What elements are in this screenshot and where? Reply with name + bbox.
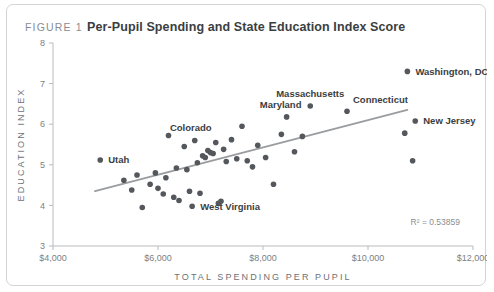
data-point — [412, 118, 418, 124]
figure-card: FIGURE 1 Per-Pupil Spending and State Ed… — [6, 4, 486, 286]
scatter-chart: 345678 $4,000$6,000$8,000$10,000$12,000 … — [7, 5, 487, 287]
point-label: West Virginia — [200, 201, 261, 212]
data-point — [184, 167, 190, 173]
data-point — [250, 164, 256, 170]
data-point — [410, 158, 416, 164]
y-tick-label: 7 — [40, 79, 45, 89]
trend-line — [95, 110, 407, 191]
point-label: Maryland — [260, 99, 302, 110]
data-point — [292, 149, 298, 155]
point-label: Colorado — [170, 122, 212, 133]
data-point — [284, 114, 290, 120]
data-point — [187, 188, 193, 194]
y-axis-title: EDUCATION INDEX — [16, 88, 26, 202]
data-point — [160, 191, 166, 197]
data-point — [197, 190, 203, 196]
data-point — [402, 130, 408, 136]
data-point — [189, 203, 195, 209]
data-point — [195, 160, 201, 166]
y-tick-label: 6 — [40, 119, 45, 129]
x-tick-label: $10,000 — [352, 253, 385, 263]
data-point — [121, 177, 127, 183]
data-point — [155, 186, 161, 192]
point-label: Washington, DC — [415, 66, 487, 77]
r-squared-annotation: R² = 0.53859 — [411, 217, 461, 227]
data-point — [147, 181, 153, 187]
data-point — [192, 138, 198, 144]
data-point — [255, 143, 261, 149]
data-point — [174, 165, 180, 171]
data-point — [139, 205, 145, 211]
x-tick-label: $4,000 — [39, 253, 67, 263]
data-point — [171, 194, 177, 200]
point-label: Utah — [108, 154, 129, 165]
y-tick-label: 3 — [40, 241, 45, 251]
data-point — [213, 140, 219, 146]
data-point — [202, 155, 208, 161]
data-point — [307, 103, 313, 109]
data-point — [153, 170, 159, 176]
data-point — [229, 137, 235, 143]
data-points — [97, 69, 418, 211]
data-point — [279, 132, 285, 138]
data-point — [176, 198, 182, 204]
data-point — [300, 134, 306, 140]
data-point — [344, 108, 350, 114]
data-point — [221, 147, 227, 153]
y-tick-label: 5 — [40, 160, 45, 170]
data-point — [163, 175, 169, 181]
data-point — [210, 151, 216, 157]
data-point — [263, 155, 269, 161]
data-point — [223, 159, 229, 165]
data-point — [234, 156, 240, 162]
x-tick-label: $12,000 — [457, 253, 487, 263]
point-label: Connecticut — [353, 94, 409, 105]
x-axis: $4,000$6,000$8,000$10,000$12,000 — [39, 246, 487, 263]
data-point — [239, 123, 245, 129]
data-point — [97, 157, 103, 163]
y-tick-label: 8 — [40, 38, 45, 48]
point-label: Massachusetts — [276, 88, 344, 99]
data-point — [134, 172, 140, 178]
data-point — [181, 144, 187, 150]
point-label: New Jersey — [423, 115, 476, 126]
y-axis: 345678 — [40, 38, 53, 251]
data-point — [129, 187, 135, 193]
data-point — [405, 69, 411, 75]
x-tick-label: $8,000 — [249, 253, 277, 263]
data-point — [244, 158, 250, 164]
y-tick-label: 4 — [40, 201, 45, 211]
chart-canvas: 345678 $4,000$6,000$8,000$10,000$12,000 … — [7, 5, 487, 287]
x-axis-title: TOTAL SPENDING PER PUPIL — [174, 272, 351, 282]
data-point — [166, 133, 172, 139]
data-point — [271, 181, 277, 187]
x-tick-label: $6,000 — [144, 253, 172, 263]
